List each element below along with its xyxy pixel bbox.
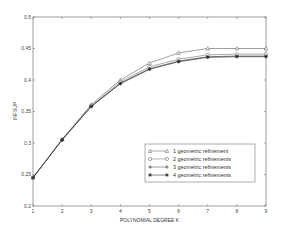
y-tick-label: 0.4	[24, 77, 31, 83]
x-tick-label: 8	[235, 208, 238, 214]
axes: 1234567890.20.250.30.350.40.450.5	[21, 14, 267, 214]
star-marker-icon	[119, 82, 123, 86]
y-tick-label: 0.5	[24, 14, 31, 20]
legend-label: 4 geometric refinements	[173, 172, 231, 178]
star-marker-icon	[89, 105, 93, 109]
x-tick-label: 3	[90, 208, 93, 214]
y-tick-label: 0.25	[21, 171, 31, 177]
x-tick-label: 1	[32, 208, 35, 214]
y-tick-label: 0.45	[21, 45, 31, 51]
x-tick-label: 4	[119, 208, 122, 214]
y-tick-label: 0.2	[24, 203, 31, 209]
star-marker-icon	[31, 176, 35, 180]
x-tick-label: 2	[61, 208, 64, 214]
legend: 1 geometric refinement2 geometric refine…	[145, 144, 255, 182]
legend-label: 2 geometric refinements	[173, 156, 231, 162]
circle-marker-icon	[165, 157, 168, 160]
line-chart: 1234567890.20.250.30.350.40.450.5 1 geom…	[0, 0, 282, 228]
x-tick-label: 7	[206, 208, 209, 214]
x-axis-label: POLYNOMIAL DEGREE K	[120, 217, 180, 223]
x-tick-label: 5	[148, 208, 151, 214]
x-tick-label: 9	[265, 208, 268, 214]
legend-label: 1 geometric refinement	[173, 148, 229, 154]
circle-marker-icon	[148, 157, 151, 160]
star-marker-icon	[60, 138, 64, 142]
star-marker-icon	[264, 55, 268, 59]
y-axis-label: INFSUP	[12, 101, 18, 120]
x-tick-label: 6	[177, 208, 180, 214]
legend-label: 3 geometric refinements	[173, 164, 231, 170]
y-tick-label: 0.35	[21, 108, 31, 114]
y-tick-label: 0.3	[24, 140, 31, 146]
